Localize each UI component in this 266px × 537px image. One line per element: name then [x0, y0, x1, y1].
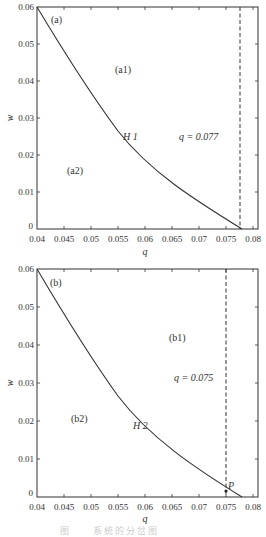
x-tick-label: 0.05 [83, 234, 99, 244]
x-tick-label: 0.075 [216, 234, 237, 244]
y-tick-label: 0.06 [18, 2, 34, 12]
curve-label-h2: H 2 [132, 420, 148, 431]
x-tick-label: 0.055 [108, 502, 129, 512]
panel-label-b: (b) [50, 277, 62, 289]
y-tick-label: 0.03 [18, 378, 34, 388]
y-tick-label: 0.01 [18, 187, 34, 197]
y-tick-label: 0.03 [18, 113, 34, 123]
x-tick-label: 0.065 [162, 502, 183, 512]
y-tick-label: 0.02 [18, 416, 34, 426]
y-axis-label-b: w [4, 379, 15, 386]
y-tick-label: 0.01 [18, 454, 34, 464]
y-tick-label: 0.04 [18, 76, 34, 86]
y-ticks-b [37, 307, 258, 459]
region-label-b2: (b2) [71, 413, 88, 425]
region-label-a2: (a2) [67, 165, 83, 177]
curve-label-h1: H 1 [122, 131, 138, 142]
panel-b: 0.06 0.05 0.04 0.03 0.02 0.01 0 0.04 0.0… [4, 264, 261, 524]
x-tick-label: 0.045 [54, 234, 75, 244]
x-tick-label: 0.05 [83, 502, 99, 512]
x-tick-label: 0.08 [245, 234, 261, 244]
line-label-q-0075: q = 0.075 [174, 372, 213, 383]
x-tick-label: 0.07 [191, 234, 207, 244]
panel-label-a: (a) [51, 14, 62, 26]
curve-h2 [37, 269, 242, 497]
plot-frame-b [37, 269, 258, 497]
x-axis-label-a: q [143, 246, 148, 257]
x-tick-label: 0.045 [54, 502, 75, 512]
region-label-b1: (b1) [169, 332, 186, 344]
y-axis-label-a: w [4, 114, 15, 121]
y-tick-label: 0.06 [18, 264, 34, 274]
x-tick-label: 0.04 [29, 502, 45, 512]
y-tick-label: 0 [29, 488, 34, 498]
x-tick-label: 0.075 [216, 502, 237, 512]
y-tick-label: 0.05 [18, 39, 34, 49]
y-tick-label: 0 [29, 221, 34, 231]
x-tick-label: 0.04 [29, 234, 45, 244]
x-tick-label: 0.055 [108, 234, 129, 244]
x-tick-label: 0.07 [191, 502, 207, 512]
plot-frame-a [37, 7, 258, 229]
curve-h1 [37, 7, 242, 229]
x-tick-label: 0.06 [137, 234, 153, 244]
y-tick-label: 0.04 [18, 340, 34, 350]
figure: 0.06 0.05 0.04 0.03 0.02 0.01 0 0.04 0.0… [0, 0, 266, 537]
figure-caption: 图 系统的分岔图 [60, 524, 159, 537]
x-ticks-b [64, 269, 253, 497]
region-label-a1: (a1) [115, 64, 131, 76]
panel-a: 0.06 0.05 0.04 0.03 0.02 0.01 0 0.04 0.0… [4, 2, 261, 257]
point-label-p: P [227, 480, 234, 491]
x-tick-label: 0.065 [162, 234, 183, 244]
y-tick-label: 0.05 [18, 302, 34, 312]
line-label-q-0077: q = 0.077 [179, 131, 219, 142]
x-tick-label: 0.06 [137, 502, 153, 512]
y-tick-label: 0.02 [18, 150, 34, 160]
x-ticks-a [64, 7, 253, 229]
x-tick-label: 0.08 [245, 502, 261, 512]
x-axis-label-b: q [143, 513, 148, 524]
